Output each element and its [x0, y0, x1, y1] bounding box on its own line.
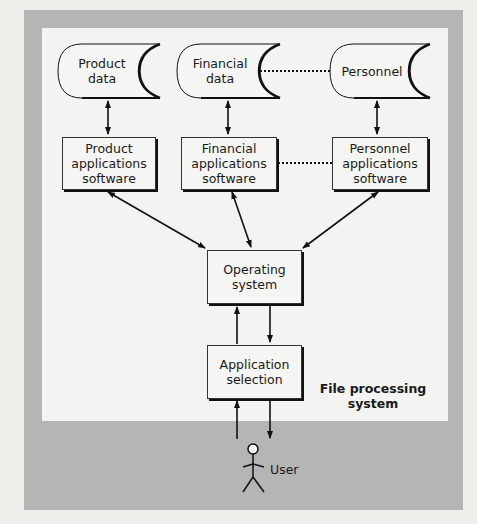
product-data-label: Product data	[64, 56, 140, 86]
operating-system-label: Operating system	[223, 262, 286, 292]
financial-apps-line1: Financial	[191, 141, 266, 156]
financial-data-line1: Financial	[181, 56, 259, 71]
caption-line1: File processing	[318, 381, 428, 396]
financial-applications-box: Financial applications software	[181, 137, 277, 190]
arrow-os-product-apps	[108, 192, 205, 248]
selection-line2: selection	[220, 372, 290, 387]
personnel-applications-box: Personnel applications software	[332, 137, 428, 190]
product-data-line2: data	[64, 71, 140, 86]
arrow-os-financial-apps	[232, 192, 251, 247]
selection-line1: Application	[220, 357, 290, 372]
operating-system-box: Operating system	[207, 250, 302, 304]
financial-data-label: Financial data	[181, 56, 259, 86]
personnel-apps-line3: software	[342, 171, 417, 186]
financial-data-line2: data	[181, 71, 259, 86]
product-data-line1: Product	[64, 56, 140, 71]
user-label: User	[270, 462, 299, 477]
personnel-applications-label: Personnel applications software	[342, 141, 417, 186]
financial-applications-label: Financial applications software	[191, 141, 266, 186]
product-applications-label: Product applications software	[71, 141, 146, 186]
application-selection-box: Application selection	[207, 345, 302, 399]
personnel-apps-line2: applications	[342, 156, 417, 171]
personnel-data-line1: Personnel	[334, 64, 410, 79]
financial-apps-line3: software	[191, 171, 266, 186]
user-stick-figure-icon	[243, 444, 264, 492]
product-applications-box: Product applications software	[62, 137, 156, 190]
financial-apps-line2: applications	[191, 156, 266, 171]
os-line2: system	[223, 277, 286, 292]
product-apps-line3: software	[71, 171, 146, 186]
personnel-data-label: Personnel	[334, 64, 410, 79]
arrow-os-personnel-apps	[303, 192, 378, 248]
os-line1: Operating	[223, 262, 286, 277]
application-selection-label: Application selection	[220, 357, 290, 387]
personnel-apps-line1: Personnel	[342, 141, 417, 156]
system-caption: File processing system	[318, 381, 428, 411]
product-apps-line2: applications	[71, 156, 146, 171]
product-apps-line1: Product	[71, 141, 146, 156]
caption-line2: system	[318, 396, 428, 411]
